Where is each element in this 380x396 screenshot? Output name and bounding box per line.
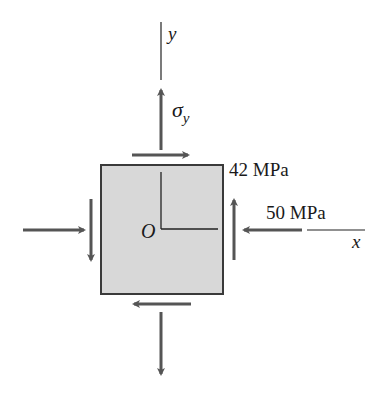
- origin-label: O: [141, 220, 155, 242]
- shear-stress-label: 42 MPa: [229, 159, 289, 180]
- sigma-y-label: σy: [172, 97, 190, 126]
- normal-stress-x-label: 50 MPa: [266, 202, 326, 223]
- y-axis-label: y: [166, 23, 177, 44]
- stress-element-diagram: y σy O 42 MPa 50 MPa x: [0, 0, 380, 396]
- x-axis-label: x: [351, 231, 361, 252]
